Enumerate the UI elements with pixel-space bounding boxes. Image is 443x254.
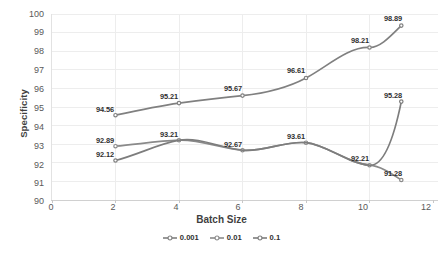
data-label: 92.21 bbox=[351, 154, 369, 163]
data-label: 95.28 bbox=[384, 91, 402, 100]
legend-label: 0.01 bbox=[227, 233, 242, 242]
legend-marker-icon bbox=[210, 234, 224, 242]
data-label: 98.89 bbox=[384, 14, 402, 23]
legend-item-0001[interactable]: 0.001 bbox=[163, 233, 199, 242]
legend-item-01[interactable]: 0.1 bbox=[253, 233, 281, 242]
data-label: 92.12 bbox=[96, 150, 114, 159]
legend-item-001[interactable]: 0.01 bbox=[210, 233, 242, 242]
legend-label: 0.1 bbox=[270, 233, 281, 242]
data-label: 93.21 bbox=[160, 130, 178, 139]
data-label: 95.21 bbox=[160, 92, 178, 101]
legend-label: 0.001 bbox=[180, 233, 199, 242]
x-axis-title: Batch Size bbox=[0, 214, 443, 225]
data-label: 93.61 bbox=[287, 132, 305, 141]
data-label: 95.67 bbox=[224, 84, 242, 93]
legend-marker-icon bbox=[253, 234, 267, 242]
chart-container: Specificity 100 99 98 97 96 95 94 93 92 … bbox=[0, 0, 443, 254]
data-label: 92.89 bbox=[96, 136, 114, 145]
series-markers-01 bbox=[114, 100, 403, 162]
data-label: 96.61 bbox=[287, 66, 305, 75]
legend-marker-icon bbox=[163, 234, 177, 242]
data-label: 98.21 bbox=[351, 36, 369, 45]
data-label: 92.67 bbox=[224, 140, 242, 149]
data-label: 94.56 bbox=[96, 105, 114, 114]
chart-legend: 0.001 0.01 0.1 bbox=[0, 233, 443, 242]
data-label: 91.28 bbox=[384, 169, 402, 178]
